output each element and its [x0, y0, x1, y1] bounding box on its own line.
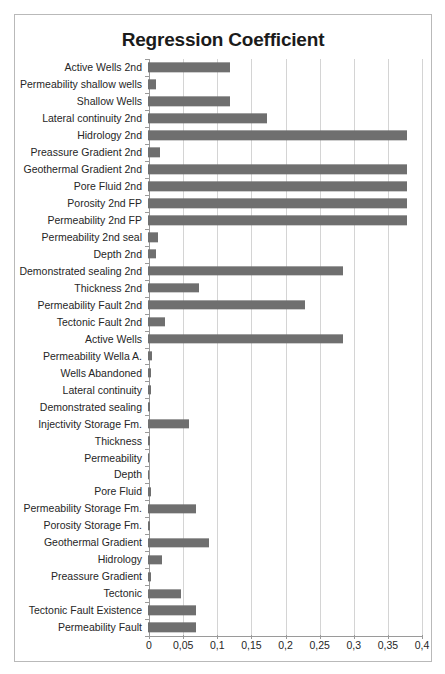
bar-track	[148, 619, 433, 636]
bar-track	[148, 331, 433, 348]
bar	[148, 97, 230, 106]
category-label: Tectonic Fault 2nd	[15, 317, 148, 328]
category-label: Preassure Gradient	[15, 571, 148, 582]
category-label: Demonstrated sealing	[15, 402, 148, 413]
bar	[148, 504, 196, 513]
bar-row: Demonstrated sealing 2nd	[15, 263, 433, 280]
category-label: Permeability Wella A.	[15, 351, 148, 362]
bar-track	[148, 93, 433, 110]
bar-track	[148, 517, 433, 534]
bar-row: Permeability Fault 2nd	[15, 297, 433, 314]
bar	[148, 283, 199, 292]
bar	[148, 436, 150, 445]
bar	[148, 572, 151, 581]
bar-row: Shallow Wells	[15, 93, 433, 110]
bar-track	[148, 466, 433, 483]
bar-track	[148, 585, 433, 602]
bar	[148, 385, 151, 394]
category-label: Pore Fluid	[15, 486, 148, 497]
bar-track	[148, 398, 433, 415]
x-tick-label: 0	[146, 639, 152, 651]
category-label: Permeability Storage Fm.	[15, 503, 148, 514]
category-label: Thickness	[15, 436, 148, 447]
bar-track	[148, 449, 433, 466]
category-label: Permeability Fault 2nd	[15, 300, 148, 311]
bar-track	[148, 500, 433, 517]
bar-row: Thickness	[15, 432, 433, 449]
chart-figure: Regression Coefficient Active Wells 2ndP…	[14, 14, 432, 662]
x-tick-label: 0,3	[346, 639, 361, 651]
category-label: Hidrology 2nd	[15, 130, 148, 141]
bar-track	[148, 178, 433, 195]
category-label: Permeability Fault	[15, 622, 148, 633]
x-tick-label: 0,05	[173, 639, 193, 651]
plot-area: Active Wells 2ndPermeability shallow wel…	[15, 59, 433, 663]
bar-row: Pore Fluid 2nd	[15, 178, 433, 195]
bar	[148, 487, 151, 496]
bar	[148, 199, 407, 208]
bar	[148, 165, 407, 174]
bar-track	[148, 381, 433, 398]
bar-row: Permeability 2nd FP	[15, 212, 433, 229]
category-label: Permeability 2nd seal	[15, 232, 148, 243]
bar	[148, 63, 230, 72]
bar-row: Permeability Storage Fm.	[15, 500, 433, 517]
bar-track	[148, 195, 433, 212]
bar-row: Hidrology	[15, 551, 433, 568]
category-label: Hidrology	[15, 554, 148, 565]
bar-rows: Active Wells 2ndPermeability shallow wel…	[15, 59, 433, 636]
x-tick-label: 0,15	[241, 639, 261, 651]
bar	[148, 521, 150, 530]
bar	[148, 334, 343, 343]
bar-track	[148, 347, 433, 364]
bar-track	[148, 246, 433, 263]
category-label: Active Wells 2nd	[15, 62, 148, 73]
category-label: Wells Abandoned	[15, 368, 148, 379]
bar	[148, 131, 407, 140]
category-label: Thickness 2nd	[15, 283, 148, 294]
bar	[148, 419, 189, 428]
bar-track	[148, 602, 433, 619]
bar-row: Tectonic	[15, 585, 433, 602]
bar-row: Thickness 2nd	[15, 280, 433, 297]
bar-row: Preassure Gradient	[15, 568, 433, 585]
category-label: Porosity 2nd FP	[15, 198, 148, 209]
bar-row: Injectivity Storage Fm.	[15, 415, 433, 432]
bar-row: Porosity 2nd FP	[15, 195, 433, 212]
bar-track	[148, 59, 433, 76]
bar-track	[148, 551, 433, 568]
bar-track	[148, 483, 433, 500]
bar-row: Depth 2nd	[15, 246, 433, 263]
bar-row: Permeability 2nd seal	[15, 229, 433, 246]
bar-track	[148, 364, 433, 381]
bar-row: Geothermal Gradient 2nd	[15, 161, 433, 178]
bar	[148, 351, 152, 360]
bar-row: Pore Fluid	[15, 483, 433, 500]
bar-track	[148, 263, 433, 280]
bar-row: Preassure Gradient 2nd	[15, 144, 433, 161]
bar-row: Lateral continuity 2nd	[15, 110, 433, 127]
bar	[148, 606, 196, 615]
category-label: Demonstrated sealing 2nd	[15, 266, 148, 277]
bar	[148, 249, 156, 258]
bar	[148, 266, 343, 275]
x-tick-label: 0,4	[415, 639, 430, 651]
bar	[148, 80, 156, 89]
bar-track	[148, 534, 433, 551]
bar-track	[148, 280, 433, 297]
category-label: Depth	[15, 469, 148, 480]
category-label: Injectivity Storage Fm.	[15, 419, 148, 430]
category-label: Permeability 2nd FP	[15, 215, 148, 226]
bar	[148, 453, 149, 462]
category-label: Geothermal Gradient	[15, 537, 148, 548]
bar-row: Active Wells 2nd	[15, 59, 433, 76]
x-tick-label: 0,25	[309, 639, 329, 651]
x-axis-tick-labels: 00,050,10,150,20,250,30,350,4	[149, 639, 422, 659]
bar-row: Permeability shallow wells	[15, 76, 433, 93]
bar-row: Porosity Storage Fm.	[15, 517, 433, 534]
bar-track	[148, 76, 433, 93]
bar-row: Demonstrated sealing	[15, 398, 433, 415]
category-label: Shallow Wells	[15, 96, 148, 107]
bar	[148, 368, 151, 377]
bar	[148, 182, 407, 191]
